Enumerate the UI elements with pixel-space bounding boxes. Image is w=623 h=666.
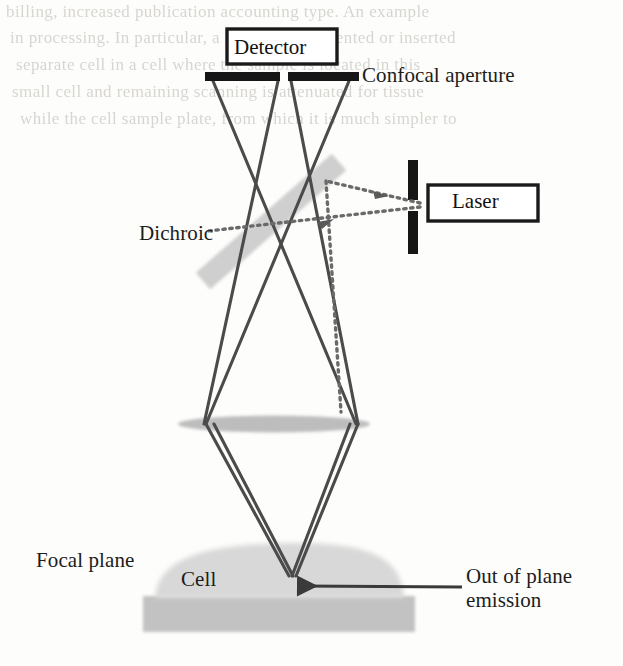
- substrate-slab: [143, 596, 415, 632]
- emission-ray-inner-left: [204, 81, 278, 424]
- aperture-bar-right: [288, 72, 359, 81]
- out-of-plane-emission-pointer: [300, 586, 462, 587]
- laser-beam-upper: [326, 181, 420, 203]
- laser-slit-upper: [408, 160, 418, 200]
- detector-label: Detector: [234, 35, 306, 60]
- dichroic-label: Dichroic: [139, 222, 213, 246]
- out-of-plane-line-2: emission: [466, 588, 541, 612]
- out-of-plane-line-1: Out of plane: [466, 564, 572, 588]
- cell-label: Cell: [181, 568, 216, 592]
- aperture-bar-left: [205, 72, 280, 81]
- confocal-aperture: [205, 72, 359, 81]
- figure-canvas: billing, increased publication accountin…: [0, 0, 623, 666]
- laser-slit-lower: [408, 211, 418, 254]
- laser-excitation-beam: [208, 181, 420, 412]
- laser-beam-lower: [208, 207, 420, 231]
- confocal-aperture-label: Confocal aperture: [362, 64, 515, 88]
- emission-ray-inner-right: [291, 81, 358, 424]
- focal-plane-label: Focal plane: [36, 549, 134, 573]
- out-of-plane-emission-label: Out of plane emission: [466, 565, 572, 612]
- laser-label: Laser: [452, 189, 499, 214]
